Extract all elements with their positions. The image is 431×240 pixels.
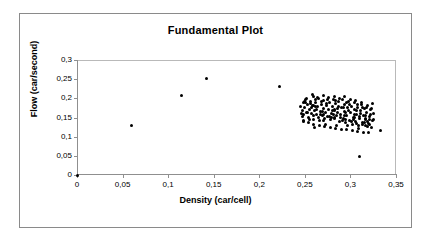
scatter-point bbox=[312, 114, 315, 117]
scatter-point bbox=[372, 118, 375, 121]
y-axis-line bbox=[77, 60, 78, 175]
y-tick-mark bbox=[74, 60, 77, 61]
scatter-point bbox=[346, 124, 349, 127]
scatter-point bbox=[360, 101, 363, 104]
x-tick-mark bbox=[305, 175, 306, 178]
x-tick-label: 0,15 bbox=[201, 180, 227, 189]
scatter-point bbox=[348, 103, 351, 106]
x-tick-label: 0 bbox=[64, 180, 90, 189]
scatter-point bbox=[320, 100, 323, 103]
scatter-point bbox=[363, 121, 366, 124]
x-tick-mark bbox=[259, 175, 260, 178]
x-tick-label: 0,35 bbox=[383, 180, 409, 189]
scatter-point bbox=[358, 115, 361, 118]
x-tick-mark bbox=[350, 175, 351, 178]
y-tick-mark bbox=[74, 156, 77, 157]
scatter-point bbox=[372, 112, 375, 115]
scatter-point bbox=[341, 119, 344, 122]
scatter-point bbox=[332, 113, 335, 116]
scatter-point bbox=[357, 127, 360, 130]
scatter-point bbox=[319, 113, 322, 116]
y-tick-mark bbox=[74, 79, 77, 80]
x-tick-mark bbox=[168, 175, 169, 178]
x-tick-label: 0,1 bbox=[155, 180, 181, 189]
scatter-point bbox=[330, 116, 333, 119]
scatter-point bbox=[320, 103, 323, 106]
x-tick-mark bbox=[123, 175, 124, 178]
y-tick-mark bbox=[74, 137, 77, 138]
scatter-point bbox=[340, 128, 343, 131]
scatter-point bbox=[322, 94, 325, 97]
scatter-point bbox=[369, 113, 372, 116]
scatter-point bbox=[347, 109, 350, 112]
y-tick-label: 0,05 bbox=[42, 151, 72, 160]
y-tick-mark bbox=[74, 118, 77, 119]
y-tick-label: 0 bbox=[42, 170, 72, 179]
scatter-point bbox=[301, 115, 304, 118]
y-tick-label: 0,25 bbox=[42, 74, 72, 83]
scatter-point bbox=[329, 126, 332, 129]
scatter-point bbox=[361, 106, 364, 109]
scatter-point bbox=[351, 129, 354, 132]
plot-area bbox=[77, 60, 396, 175]
x-tick-label: 0,3 bbox=[337, 180, 363, 189]
scatter-point bbox=[368, 123, 371, 126]
x-tick-mark bbox=[214, 175, 215, 178]
y-axis-title: Flow (car/second) bbox=[29, 29, 39, 129]
scatter-point bbox=[328, 101, 331, 104]
scatter-point bbox=[362, 131, 365, 134]
x-axis-line bbox=[77, 174, 397, 175]
scatter-point bbox=[370, 107, 373, 110]
scatter-point bbox=[343, 114, 346, 117]
scatter-point bbox=[299, 105, 302, 108]
scatter-point bbox=[327, 108, 330, 111]
scatter-point bbox=[318, 124, 321, 127]
x-tick-mark bbox=[396, 175, 397, 178]
y-tick-label: 0,15 bbox=[42, 113, 72, 122]
scatter-point bbox=[76, 174, 79, 177]
y-tick-mark bbox=[74, 98, 77, 99]
scatter-point bbox=[359, 112, 362, 115]
scatter-point bbox=[371, 102, 374, 105]
scatter-point bbox=[349, 98, 352, 101]
scatter-point bbox=[311, 93, 314, 96]
chart-title: Fundamental Plot bbox=[20, 24, 411, 36]
x-tick-label: 0,25 bbox=[292, 180, 318, 189]
x-tick-label: 0,2 bbox=[246, 180, 272, 189]
y-tick-label: 0,1 bbox=[42, 132, 72, 141]
scatter-point bbox=[333, 95, 336, 98]
scatter-point bbox=[370, 126, 373, 129]
scatter-point bbox=[312, 104, 315, 107]
scatter-point bbox=[307, 121, 310, 124]
chart-outer-frame: Fundamental Plot 00,050,10,150,20,250,30… bbox=[19, 13, 412, 228]
y-tick-label: 0,2 bbox=[42, 93, 72, 102]
x-axis-title: Density (car/cell) bbox=[20, 195, 411, 205]
y-tick-label: 0,3 bbox=[42, 55, 72, 64]
x-tick-label: 0,05 bbox=[110, 180, 136, 189]
